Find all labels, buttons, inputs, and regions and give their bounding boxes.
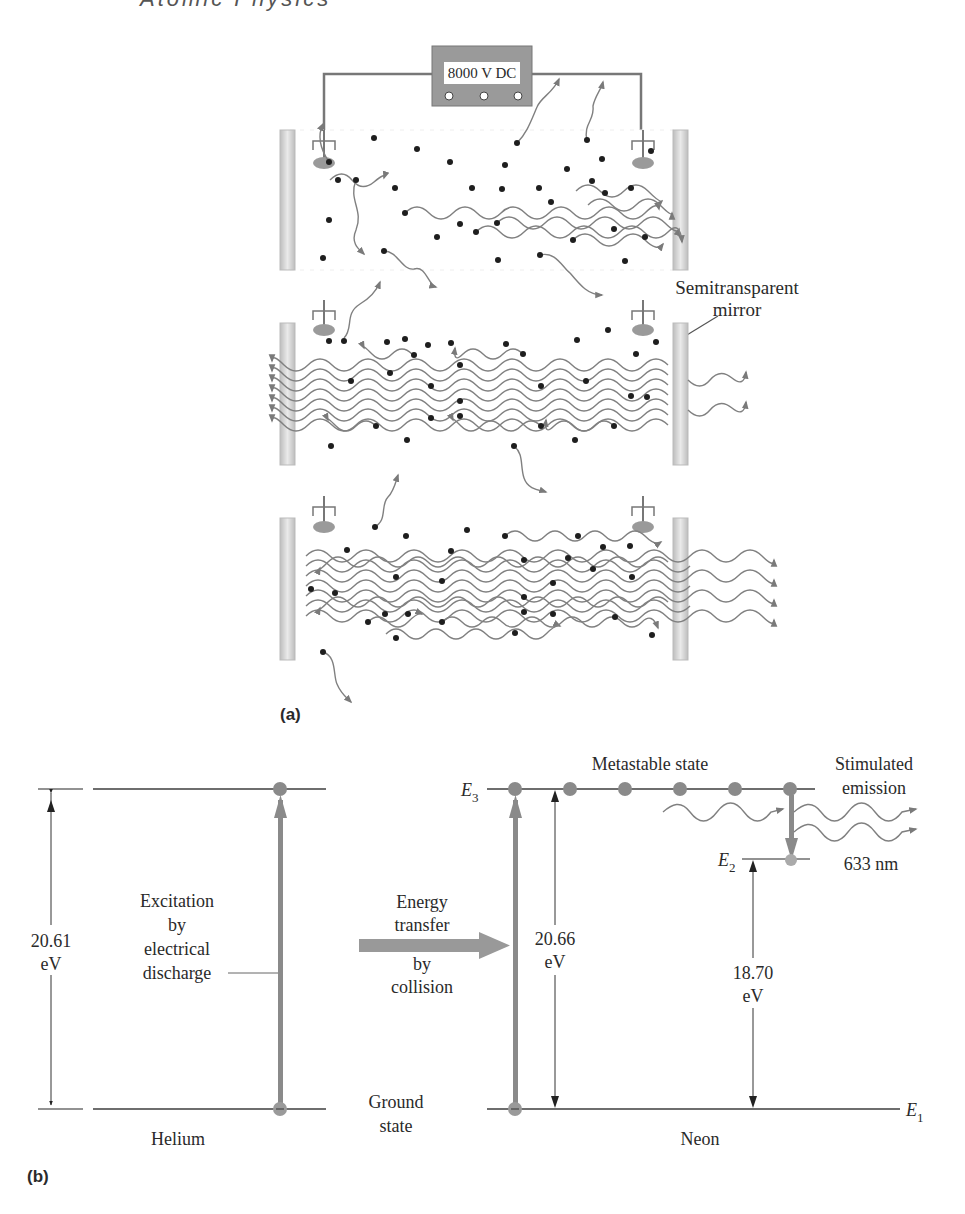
- e2-atom: [785, 854, 797, 866]
- laser-tube-1: [280, 79, 688, 295]
- neon-e2-energy-unit: eV: [743, 986, 764, 1006]
- helium-energy-value: 20.61: [31, 931, 72, 951]
- power-supply: 8000 V DC: [324, 46, 641, 130]
- helium-label: Helium: [151, 1129, 205, 1149]
- mirror-right-semitransparent: [673, 323, 688, 465]
- transfer-line3: by: [413, 954, 431, 974]
- panel-a-label: (a): [280, 705, 301, 724]
- mirror-left: [280, 518, 295, 660]
- energy-transfer-arrow: Energy transfer by collision: [359, 892, 510, 997]
- stimulated-line1: Stimulated: [835, 754, 913, 774]
- neon-e2-energy-value: 18.70: [733, 963, 774, 983]
- neon-e3-energy-unit: eV: [545, 952, 566, 972]
- wavelength-label: 633 nm: [844, 854, 899, 874]
- neon-energy-diagram: E3 E2 E1 Metastable state Stimulated emi…: [460, 754, 924, 1149]
- e3-label: E3: [460, 780, 479, 805]
- electron-dots: [308, 524, 655, 655]
- electrode-icon: [313, 300, 335, 336]
- electrode-icon: [632, 496, 654, 533]
- electrode-icon: [632, 300, 654, 336]
- ground-state-line2: state: [380, 1116, 413, 1136]
- transfer-line2: transfer: [395, 915, 450, 935]
- e1-label: E1: [905, 1100, 924, 1125]
- panel-b: 20.61 eV Excitation by electrical discha…: [27, 754, 924, 1186]
- panel-b-label: (b): [27, 1167, 49, 1186]
- laser-diagram: 8000 V DC: [0, 0, 965, 1214]
- electrode-icon: [313, 496, 335, 533]
- mirror-label: Semitransparent mirror: [675, 277, 799, 338]
- transfer-line4: collision: [391, 977, 453, 997]
- excitation-line1: Excitation: [140, 891, 214, 911]
- laser-tube-3: [280, 475, 774, 702]
- helium-energy-diagram: 20.61 eV Excitation by electrical discha…: [31, 782, 326, 1149]
- neon-e3-energy-value: 20.66: [535, 929, 576, 949]
- laser-tube-2: [272, 282, 746, 492]
- helium-excited-atom: [273, 782, 287, 796]
- helium-energy-unit: eV: [41, 954, 62, 974]
- excitation-line4: discharge: [143, 963, 212, 983]
- metastable-label: Metastable state: [592, 754, 708, 774]
- neon-label: Neon: [681, 1129, 720, 1149]
- stimulated-line2: emission: [842, 778, 906, 798]
- mirror-label-line2: mirror: [713, 299, 762, 320]
- mirror-left: [280, 130, 295, 270]
- e2-label: E2: [717, 850, 736, 875]
- transfer-line1: Energy: [396, 892, 448, 912]
- panel-a: 8000 V DC: [272, 46, 799, 724]
- power-supply-label: 8000 V DC: [448, 65, 517, 81]
- excitation-line3: electrical: [144, 939, 210, 959]
- ground-state-line1: Ground: [369, 1092, 424, 1112]
- mirror-right-semitransparent: [673, 130, 688, 270]
- mirror-label-line1: Semitransparent: [675, 277, 799, 298]
- excitation-line2: by: [168, 915, 186, 935]
